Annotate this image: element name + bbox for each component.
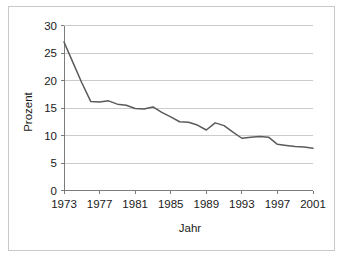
figure-root: 051015202530 197319771981198519891993199… [0,0,346,263]
x-tick-label: 1997 [265,198,291,210]
y-tick-label: 15 [44,102,57,114]
x-tick-label: 1989 [193,198,219,210]
x-tick-label: 1973 [51,198,77,210]
x-tickmarks [64,191,313,195]
x-tick-label: 1977 [87,198,113,210]
x-tick-label: 1985 [158,198,184,210]
y-tick-label: 0 [51,185,57,197]
y-tick-label: 5 [51,157,57,169]
y-tick-labels: 051015202530 [44,20,57,197]
x-tick-label: 1981 [122,198,148,210]
x-tick-label: 2001 [300,198,326,210]
x-tick-labels: 19731977198119851989199319972001 [51,198,326,210]
x-tick-label: 1993 [229,198,255,210]
y-tick-label: 25 [44,47,57,59]
y-tick-label: 10 [44,130,57,142]
y-tickmarks [61,26,65,191]
data-series-line [64,42,313,148]
y-tick-label: 30 [44,20,57,32]
line-chart: 051015202530 197319771981198519891993199… [0,0,346,263]
y-axis-title: Prozent [22,91,34,131]
y-tick-label: 20 [44,75,57,87]
x-axis-title: Jahr [179,222,202,234]
